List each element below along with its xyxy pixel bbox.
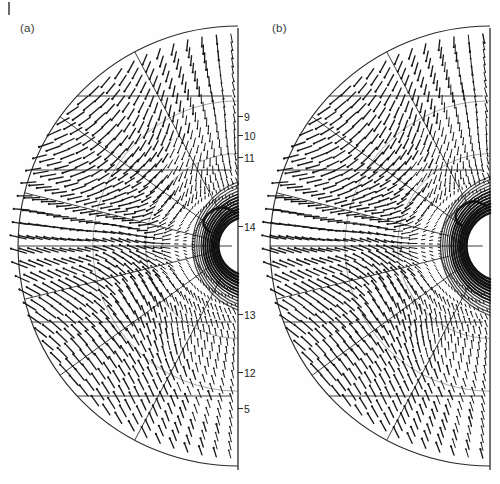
tick-mark bbox=[238, 372, 243, 373]
tick-mark bbox=[238, 116, 243, 117]
panel-b: (b) bbox=[250, 0, 500, 484]
tick-mark bbox=[238, 408, 243, 409]
tick-mark bbox=[238, 157, 243, 158]
axis-tick-label-11: 11 bbox=[244, 153, 255, 164]
tick-mark bbox=[238, 226, 243, 227]
axis-tick-label-13: 13 bbox=[244, 310, 256, 321]
tick-mark bbox=[238, 135, 243, 136]
panel-b-vector-field bbox=[0, 0, 500, 484]
axis-tick-label-9: 9 bbox=[244, 112, 250, 123]
tick-mark bbox=[238, 314, 243, 315]
axis-tick-label-14: 14 bbox=[244, 222, 256, 233]
axis-tick-label-5: 5 bbox=[244, 404, 250, 415]
figure-canvas: (a) (b) 910111413125 bbox=[0, 0, 500, 484]
axis-tick-label-12: 12 bbox=[244, 368, 256, 379]
axis-tick-label-10: 10 bbox=[244, 131, 256, 142]
